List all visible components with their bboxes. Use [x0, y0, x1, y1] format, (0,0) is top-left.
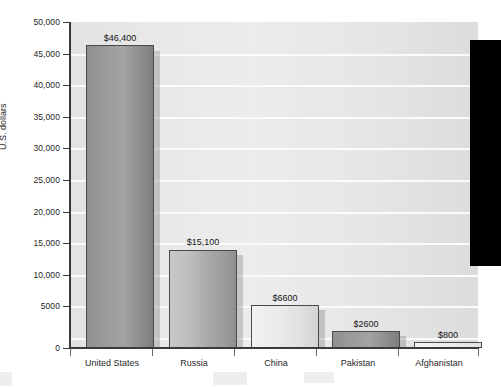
y-tick — [63, 54, 70, 55]
y-axis-title: U.S. dollars — [0, 103, 8, 150]
x-tick-label-russia: Russia — [153, 358, 235, 368]
y-tick — [63, 85, 70, 86]
y-tick — [63, 22, 70, 23]
x-tick — [152, 349, 153, 356]
x-tick — [398, 349, 399, 356]
bar-china[interactable] — [251, 305, 319, 348]
bar-value-united-states: $46,400 — [80, 33, 160, 43]
y-axis-line — [69, 22, 71, 349]
y-tick-label: 45,000 — [8, 49, 60, 59]
bar-russia[interactable] — [169, 250, 237, 349]
scan-artifact-smudge — [213, 372, 247, 385]
y-tick — [63, 180, 70, 181]
y-tick — [63, 148, 70, 149]
y-tick-label: 0 — [8, 343, 60, 353]
y-tick — [63, 348, 70, 349]
x-tick — [316, 349, 317, 356]
bar-value-afghanistan: $800 — [408, 330, 488, 340]
bar-value-russia: $15,100 — [163, 237, 243, 247]
x-axis-line — [69, 347, 479, 349]
y-tick-label: 25,000 — [8, 175, 60, 185]
bar-value-pakistan: $2600 — [326, 319, 406, 329]
y-tick-label: 10,000 — [8, 270, 60, 280]
x-tick — [234, 349, 235, 356]
y-tick — [63, 117, 70, 118]
y-tick — [63, 306, 70, 307]
y-tick-label: 30,000 — [8, 143, 60, 153]
y-tick-label: 20,000 — [8, 207, 60, 217]
y-tick-label: 35,000 — [8, 112, 60, 122]
x-tick-label-united-states: United States — [71, 358, 153, 368]
y-tick-label: 40,000 — [8, 80, 60, 90]
bar-value-china: $6600 — [245, 293, 325, 303]
y-tick-label: 15,000 — [8, 238, 60, 248]
y-tick — [63, 243, 70, 244]
plot-area: $46,400 $15,100 $6600 $2600 $800 — [70, 22, 478, 348]
bar-pakistan[interactable] — [332, 331, 400, 348]
scan-artifact-smudge — [0, 372, 12, 386]
scan-artifact-black-block — [470, 40, 501, 266]
bar-united-states[interactable] — [86, 45, 154, 348]
x-tick-label-china: China — [235, 358, 317, 368]
y-tick-label: 50,000 — [8, 17, 60, 27]
y-tick — [63, 275, 70, 276]
x-tick — [70, 349, 71, 356]
scan-artifact-smudge — [304, 372, 334, 383]
x-tick-label-pakistan: Pakistan — [317, 358, 399, 368]
x-tick-label-afghanistan: Afghanistan — [399, 358, 479, 368]
bar-chart-figure: $46,400 $15,100 $6600 $2600 $800 U.S. d — [0, 0, 501, 387]
y-tick-label: 5000 — [8, 301, 60, 311]
x-tick — [478, 349, 479, 356]
y-tick — [63, 212, 70, 213]
